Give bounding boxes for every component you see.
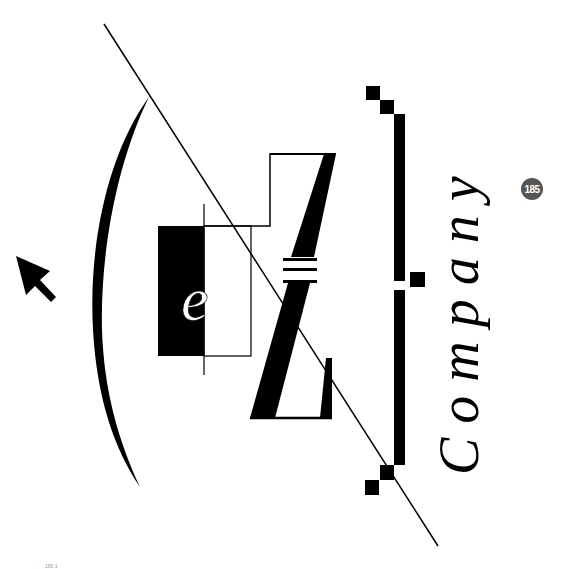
footer-mark: 185 1: [45, 563, 58, 569]
arrow-pointer-icon: [16, 256, 56, 302]
company-text: Company: [428, 162, 490, 475]
bracket: [365, 86, 425, 495]
e-letter: e: [181, 265, 209, 333]
z-mark: [250, 154, 336, 418]
ez-company-logo: e Company: [0, 0, 568, 569]
page-number-badge: 185: [521, 178, 543, 200]
crescent-arc: [92, 97, 149, 487]
